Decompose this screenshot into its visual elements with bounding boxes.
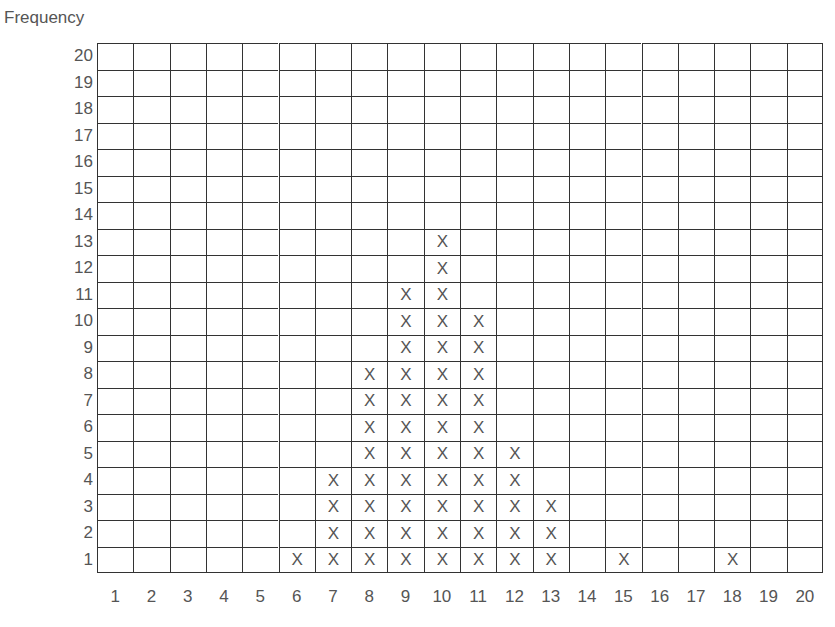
- grid-cell: [242, 96, 278, 123]
- grid-cell: [279, 335, 315, 362]
- grid-cell: [170, 123, 206, 150]
- x-marker: X: [618, 550, 629, 570]
- grid-cell: [279, 70, 315, 97]
- grid-cell: [424, 123, 460, 150]
- grid-cell: X: [279, 547, 315, 574]
- grid-cell: [206, 520, 242, 547]
- grid-cell: [170, 229, 206, 256]
- x-marker: X: [400, 497, 411, 517]
- grid-cell: [133, 43, 169, 70]
- grid-cell: [750, 441, 786, 468]
- x-marker: X: [473, 550, 484, 570]
- grid-cell: [714, 308, 750, 335]
- grid-cell: [133, 96, 169, 123]
- grid-cell: [170, 96, 206, 123]
- grid-cell: [750, 70, 786, 97]
- x-tick-label: 13: [533, 587, 569, 607]
- grid-cell: [714, 70, 750, 97]
- grid-cell: [496, 308, 532, 335]
- grid-cell: [242, 176, 278, 203]
- grid-cell: [351, 308, 387, 335]
- y-tick-label: 10: [2, 311, 93, 331]
- grid-cell: [387, 123, 423, 150]
- x-marker: X: [364, 550, 375, 570]
- grid-cell: [315, 96, 351, 123]
- x-marker: X: [437, 285, 448, 305]
- x-marker: X: [364, 418, 375, 438]
- x-marker: X: [437, 524, 448, 544]
- x-marker: X: [509, 471, 520, 491]
- y-tick-label: 15: [2, 179, 93, 199]
- grid-cell: [133, 335, 169, 362]
- grid-cell: [460, 202, 496, 229]
- grid-cell: X: [605, 547, 641, 574]
- grid-cell: [242, 70, 278, 97]
- grid-cell: [424, 202, 460, 229]
- grid-cell: [242, 282, 278, 309]
- grid-cell: [97, 414, 133, 441]
- grid-cell: [787, 335, 823, 362]
- grid-cell: [279, 308, 315, 335]
- x-marker: X: [473, 497, 484, 517]
- grid-cell: [424, 176, 460, 203]
- grid-cell: [642, 361, 678, 388]
- grid-cell: [605, 96, 641, 123]
- grid-cell: [750, 467, 786, 494]
- grid-cell: X: [460, 335, 496, 362]
- grid-cell: [315, 123, 351, 150]
- grid-cell: X: [424, 467, 460, 494]
- x-tick-label: 20: [787, 587, 823, 607]
- grid-cell: [533, 123, 569, 150]
- x-marker: X: [437, 232, 448, 252]
- grid-cell: [569, 202, 605, 229]
- grid-cell: [678, 414, 714, 441]
- x-marker: X: [400, 391, 411, 411]
- grid-cell: [315, 335, 351, 362]
- grid-cell: [642, 176, 678, 203]
- x-marker: X: [437, 312, 448, 332]
- grid-cell: [206, 308, 242, 335]
- grid-cell: X: [533, 520, 569, 547]
- grid-cell: [97, 123, 133, 150]
- grid-cell: [569, 96, 605, 123]
- grid-cell: [97, 229, 133, 256]
- grid-cell: X: [387, 547, 423, 574]
- grid-cell: [605, 467, 641, 494]
- grid-cell: [569, 414, 605, 441]
- grid-cell: X: [533, 494, 569, 521]
- grid-cell: [279, 202, 315, 229]
- grid-cell: [133, 202, 169, 229]
- x-tick-label: 14: [569, 587, 605, 607]
- grid-cell: [170, 520, 206, 547]
- grid-cell: [206, 547, 242, 574]
- grid-cell: [97, 282, 133, 309]
- grid-cell: [787, 70, 823, 97]
- grid-cell: [97, 202, 133, 229]
- grid-cell: [170, 441, 206, 468]
- grid-cell: X: [424, 441, 460, 468]
- grid-cell: [569, 70, 605, 97]
- grid-cell: [133, 176, 169, 203]
- grid-cell: [605, 70, 641, 97]
- grid-cell: [133, 494, 169, 521]
- grid-cell: [387, 43, 423, 70]
- y-tick-label: 9: [2, 338, 93, 358]
- x-marker: X: [364, 497, 375, 517]
- grid-cell: X: [460, 308, 496, 335]
- grid-cell: [315, 414, 351, 441]
- x-marker: X: [364, 365, 375, 385]
- grid-cell: X: [387, 335, 423, 362]
- grid-cell: [678, 202, 714, 229]
- x-tick-label: 15: [605, 587, 641, 607]
- grid-cell: [496, 70, 532, 97]
- grid-cell: [642, 467, 678, 494]
- grid-cell: [678, 361, 714, 388]
- grid-cell: [678, 255, 714, 282]
- y-tick-label: 14: [2, 205, 93, 225]
- y-tick-label: 8: [2, 364, 93, 384]
- grid-cell: [242, 255, 278, 282]
- grid-cell: [569, 229, 605, 256]
- grid-cell: [387, 149, 423, 176]
- grid-cell: [642, 414, 678, 441]
- grid-cell: [678, 335, 714, 362]
